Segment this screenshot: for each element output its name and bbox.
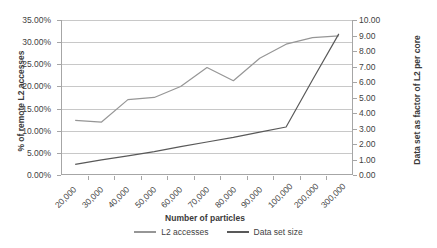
y-axis-left-tick-label: 25.00%	[3, 59, 51, 69]
x-axis-tick-label: 30,000	[80, 184, 105, 209]
y-axis-right-tick-mark	[353, 20, 357, 21]
y-axis-left-tick-label: 0.00%	[3, 170, 51, 180]
y-axis-right-tick-label: 2.00	[359, 139, 403, 149]
x-axis-tick-mark	[141, 176, 142, 180]
series-line	[75, 36, 339, 122]
y-axis-right-tick-label: 6.00	[359, 77, 403, 87]
y-axis-left-tick-label: 35.00%	[3, 15, 51, 25]
x-axis-tick-mark	[220, 176, 221, 180]
x-axis-tick-label: 90,000	[239, 184, 264, 209]
x-axis-ticks: 20,00030,00040,00050,00060,00070,00080,0…	[61, 176, 353, 220]
x-axis-tick-mark	[300, 176, 301, 180]
x-axis-tick-label: 200,000	[292, 181, 321, 210]
y-axis-right-tick-mark	[353, 113, 357, 114]
y-axis-right-title: Data set as factor of L2 per core	[412, 25, 422, 175]
y-axis-right-tick-label: 7.00	[359, 62, 403, 72]
y-axis-right-tick-mark	[353, 98, 357, 99]
legend-label: Data set size	[254, 228, 303, 237]
y-axis-right-tick-mark	[353, 175, 357, 176]
x-axis-tick-label: 60,000	[159, 184, 184, 209]
series-lines	[62, 20, 352, 174]
y-axis-right-tick-mark	[353, 67, 357, 68]
chart-legend: L2 accessesData set size	[0, 228, 437, 237]
y-axis-right-tick-label: 5.00	[359, 93, 403, 103]
legend-line-icon	[134, 231, 156, 233]
x-axis-tick-mark	[114, 176, 115, 180]
y-axis-left-tick-label: 15.00%	[3, 104, 51, 114]
x-axis-tick-mark	[326, 176, 327, 180]
x-axis-tick-label: 40,000	[106, 184, 131, 209]
y-axis-left-tick-label: 5.00%	[3, 148, 51, 158]
y-axis-right-tick-mark	[353, 36, 357, 37]
plot-area	[61, 20, 353, 175]
y-axis-right-tick-mark	[353, 160, 357, 161]
x-axis-tick-mark	[194, 176, 195, 180]
x-axis-tick-mark	[273, 176, 274, 180]
x-axis-tick-label: 80,000	[212, 184, 237, 209]
x-axis-tick-label: 70,000	[186, 184, 211, 209]
x-axis-tick-label: 300,000	[319, 181, 348, 210]
chart-container: % of remote L2 accesses Data set as fact…	[0, 0, 437, 248]
y-axis-right-tick-mark	[353, 82, 357, 83]
y-axis-right-tick-label: 4.00	[359, 108, 403, 118]
y-axis-right-tick-mark	[353, 129, 357, 130]
legend-line-icon	[227, 231, 249, 233]
y-axis-right-tick-label: 1.00	[359, 155, 403, 165]
x-axis-tick-label: 50,000	[133, 184, 158, 209]
legend-label: L2 accesses	[161, 228, 208, 237]
x-axis-tick-label: 20,000	[53, 184, 78, 209]
y-axis-right-tick-mark	[353, 144, 357, 145]
x-axis-tick-mark	[247, 176, 248, 180]
legend-item[interactable]: L2 accesses	[134, 228, 208, 237]
y-axis-right-tick-label: 0.00	[359, 170, 403, 180]
x-axis-tick-mark	[88, 176, 89, 180]
y-axis-left-tick-label: 10.00%	[3, 126, 51, 136]
y-axis-left-tick-label: 30.00%	[3, 37, 51, 47]
y-axis-right-tick-mark	[353, 51, 357, 52]
x-axis-tick-mark	[167, 176, 168, 180]
y-axis-right-tick-label: 9.00	[359, 31, 403, 41]
x-axis-tick-label: 100,000	[265, 181, 294, 210]
y-axis-right-tick-label: 10.00	[359, 15, 403, 25]
y-axis-right-tick-label: 8.00	[359, 46, 403, 56]
y-axis-left-tick-label: 20.00%	[3, 81, 51, 91]
legend-item[interactable]: Data set size	[227, 228, 303, 237]
series-line	[75, 34, 339, 165]
y-axis-right-tick-label: 3.00	[359, 124, 403, 134]
